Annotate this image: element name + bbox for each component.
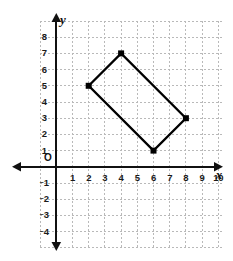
y-tick-label: –2 <box>40 194 49 204</box>
y-tick-label: 6 <box>42 65 47 75</box>
y-axis-label: y <box>60 13 66 26</box>
y-tick-label: –4 <box>40 227 49 237</box>
y-tick-label: 8 <box>42 32 47 42</box>
y-tick-label: 2 <box>42 130 47 140</box>
x-tick-label: 5 <box>135 173 140 183</box>
plot-canvas <box>0 0 233 261</box>
x-tick-label: 9 <box>200 173 205 183</box>
y-tick-label: –1 <box>40 178 49 188</box>
x-tick-label: 6 <box>151 173 156 183</box>
x-tick-label: 8 <box>183 173 188 183</box>
x-tick-label: 7 <box>167 173 172 183</box>
coordinate-plane-figure: 12345678910 87654321–1–2–3–4 O x y <box>0 0 233 261</box>
y-tick-label: 4 <box>42 97 47 107</box>
x-tick-label: 3 <box>102 173 107 183</box>
y-tick-label: 3 <box>42 113 47 123</box>
origin-label: O <box>44 153 52 163</box>
y-tick-label: 5 <box>42 81 47 91</box>
y-tick-label: 7 <box>42 49 47 59</box>
x-tick-label: 4 <box>119 173 124 183</box>
x-tick-label: 2 <box>86 173 91 183</box>
x-tick-label: 1 <box>70 173 75 183</box>
grid-lines <box>40 21 224 248</box>
x-axis-label: x <box>216 168 223 181</box>
y-tick-label: –3 <box>40 210 49 220</box>
